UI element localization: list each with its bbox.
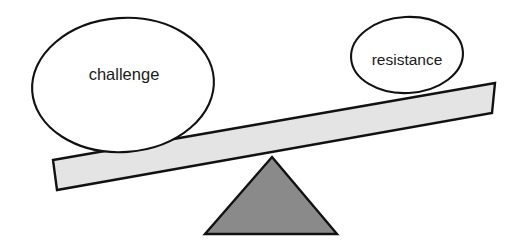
diagram-canvas: challenge resistance bbox=[0, 0, 520, 248]
resistance-label: resistance bbox=[372, 51, 443, 68]
challenge-label: challenge bbox=[89, 65, 160, 83]
balance-diagram: challenge resistance bbox=[0, 0, 520, 248]
fulcrum-triangle bbox=[205, 157, 337, 234]
